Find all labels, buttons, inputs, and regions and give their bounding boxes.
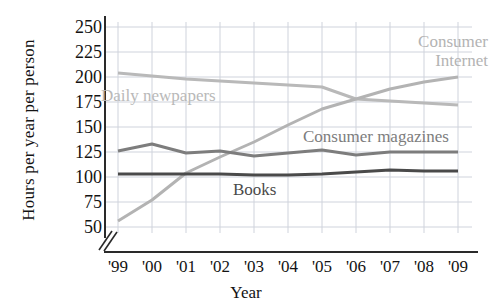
y-tick-label: 225: [28, 43, 102, 61]
series-label-consumer-internet-line2: Internet: [400, 51, 488, 70]
line-chart-figure: Hours per year per person 25022520017515…: [0, 0, 492, 300]
x-axis-title: Year: [0, 283, 492, 300]
y-tick-label: 50: [28, 218, 102, 236]
series-label-consumer-internet: Consumer Internet: [400, 32, 488, 70]
x-tick-label: '09: [438, 256, 478, 278]
y-tick-label: 250: [28, 18, 102, 36]
series-label-consumer-internet-line1: Consumer: [418, 32, 488, 51]
series-label-daily-newspapers: Daily newpapers: [101, 86, 216, 105]
y-tick-label: 125: [28, 143, 102, 161]
y-tick-label: 75: [28, 193, 102, 211]
y-tick-label: 200: [28, 68, 102, 86]
y-axis-tick-labels: 2502252001751501251007550: [28, 0, 102, 300]
x-axis-spine: [104, 251, 478, 253]
axis-break-icon: [96, 228, 118, 254]
series-label-consumer-magazines: Consumer magazines: [303, 127, 449, 146]
y-tick-label: 175: [28, 93, 102, 111]
x-axis-tick-labels: '99'00'01'02'03'04'05'06'07'08'09: [0, 256, 492, 280]
y-axis-spine: [104, 16, 106, 238]
y-tick-label: 150: [28, 118, 102, 136]
series-label-books: Books: [233, 180, 276, 199]
y-tick-label: 100: [28, 168, 102, 186]
